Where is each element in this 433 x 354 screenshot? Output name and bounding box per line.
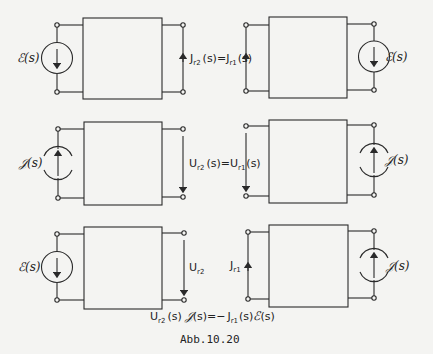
figure-caption: Abb.10.20 [180, 333, 240, 346]
source-label-left-1: ℰ(s) [17, 51, 40, 65]
source-label-left-3: ℰ(s) [18, 260, 41, 274]
svg-text:Ur2(s)𝒥(s)=−Jr1(s)ℰ(s): Ur2(s)𝒥(s)=−Jr1(s)ℰ(s) [150, 309, 275, 325]
row2-left-circuit [44, 122, 185, 205]
reciprocity-figure: ℰ(s) ℰ(s) Jr2(s)=Jr1(s) 𝒥(s) 𝒥(s) Ur2(s)… [0, 0, 433, 354]
two-port-box [84, 122, 162, 205]
row2-right-circuit [244, 120, 388, 203]
row1-left-circuit [42, 18, 186, 99]
source-label-left-2: 𝒥(s) [18, 156, 43, 170]
equation-row2: Ur2(s)=Ur1(s) [189, 157, 261, 172]
svg-text:Ur2(s)=Ur1(s): Ur2(s)=Ur1(s) [189, 157, 261, 172]
port-label-u-r2: Ur2 [189, 261, 204, 276]
two-port-box [269, 17, 347, 98]
two-port-box [84, 227, 162, 309]
source-label-right-2: 𝒥(s) [384, 153, 409, 167]
row3-left-circuit [42, 227, 187, 309]
two-port-box [269, 120, 347, 203]
source-label-right-1: ℰ(s) [385, 50, 408, 64]
row3-right-circuit [246, 225, 388, 307]
source-label-right-3: 𝒥(s) [385, 259, 410, 273]
terminal [55, 23, 59, 27]
terminal [55, 90, 59, 94]
port-label-j-r1: Jr1 [229, 259, 241, 274]
equation-row1: Jr2(s)=Jr1(s) [189, 52, 252, 67]
two-port-box [83, 18, 162, 99]
svg-text:Jr2(s)=Jr1(s): Jr2(s)=Jr1(s) [189, 52, 252, 67]
two-port-box [269, 225, 348, 307]
equation-row3: Ur2(s)𝒥(s)=−Jr1(s)ℰ(s) [150, 309, 275, 325]
row1-right-circuit [244, 17, 390, 98]
